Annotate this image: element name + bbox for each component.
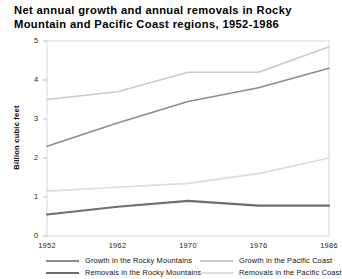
x-tick-label: 1970 [168,241,208,250]
x-tick-label: 1976 [239,241,279,250]
series-line [47,47,329,100]
legend-item-removals-rocky[interactable]: Removals in the Rocky Mountains [46,267,201,278]
legend-swatch-removals-rocky [46,272,79,274]
legend-label-removals-pacific: Removals in the Pacific Coast [239,268,342,277]
axis-ticks [43,41,47,236]
legend-swatch-removals-pacific [200,272,233,274]
legend-swatch-growth-pacific [200,260,233,262]
y-tick-label: 2 [22,153,38,162]
legend-swatch-growth-rocky [46,260,79,262]
legend-item-growth-pacific[interactable]: Growth in the Pacific Coast [200,255,332,266]
legend-label-removals-rocky: Removals in the Rocky Mountains [85,268,201,277]
y-tick-label: 0 [22,231,38,240]
chart-container: Net annual growth and annual removals in… [0,0,342,279]
y-tick-label: 3 [22,114,38,123]
legend-item-removals-pacific[interactable]: Removals in the Pacific Coast [200,267,342,278]
x-tick-label: 1952 [27,241,67,250]
y-tick-label: 4 [22,75,38,84]
y-tick-label: 1 [22,192,38,201]
x-tick-label: 1986 [309,241,342,250]
x-tick-label: 1962 [98,241,138,250]
series-line [47,158,329,191]
series-lines [47,47,329,215]
legend-item-growth-rocky[interactable]: Growth in the Rocky Mountains [46,255,192,266]
series-line [47,68,329,146]
legend-label-growth-rocky: Growth in the Rocky Mountains [85,256,192,265]
series-line [47,201,329,215]
legend-label-growth-pacific: Growth in the Pacific Coast [239,256,332,265]
y-tick-label: 5 [22,36,38,45]
chart-legend: Growth in the Rocky Mountains Removals i… [0,255,342,279]
plot-frame [47,41,329,236]
plot-area [0,0,342,279]
